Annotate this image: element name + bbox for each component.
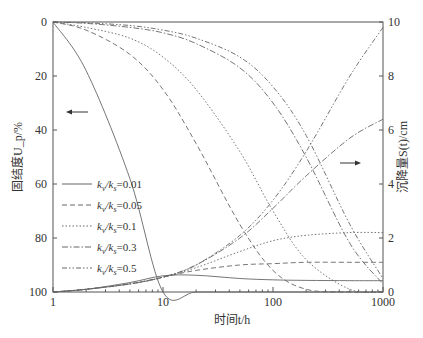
chart-container: 11010010000204060801000246810 时间t/h 固结度U… — [0, 0, 423, 338]
legend-label: kv/ks=0.01 — [97, 178, 142, 193]
series-line-3 — [53, 22, 383, 284]
legend-label: kv/ks=0.3 — [97, 241, 137, 256]
legend-label: kv/ks=0.05 — [97, 199, 142, 214]
y-left-tick-label: 80 — [35, 231, 47, 245]
legend-label: kv/ks=0.5 — [97, 262, 137, 277]
y-right-tick-label: 10 — [388, 15, 400, 29]
legend-label: kv/ks=0.1 — [97, 220, 137, 235]
axis-ticks: 11010010000204060801000246810 — [29, 15, 400, 309]
y-right-tick-label: 0 — [388, 285, 394, 299]
series-line-4 — [53, 22, 383, 279]
left-arrow-icon — [66, 110, 88, 115]
right-arrow-icon — [340, 161, 361, 166]
y-left-tick-label: 20 — [35, 69, 47, 83]
y-left-tick-label: 60 — [35, 177, 47, 191]
data-series — [53, 22, 383, 300]
x-tick-label: 1 — [50, 295, 56, 309]
y-axis-left-label: 固结度U_p/% — [10, 122, 25, 192]
y-left-tick-label: 100 — [29, 285, 47, 299]
y-axis-right-label: 沉降量S(t)/cm — [396, 120, 410, 193]
x-tick-label: 100 — [264, 295, 282, 309]
chart-svg: 11010010000204060801000246810 时间t/h 固结度U… — [0, 0, 423, 338]
series-line-5 — [53, 275, 383, 292]
legend: kv/ks=0.01kv/ks=0.05kv/ks=0.1kv/ks=0.3kv… — [62, 178, 142, 277]
y-right-tick-label: 8 — [388, 69, 394, 83]
y-left-tick-label: 0 — [41, 15, 47, 29]
y-right-tick-label: 6 — [388, 123, 394, 137]
x-axis-label: 时间t/h — [214, 313, 251, 327]
series-line-0 — [53, 22, 383, 300]
y-right-tick-label: 4 — [388, 177, 394, 191]
y-left-tick-label: 40 — [35, 123, 47, 137]
y-right-tick-label: 2 — [388, 231, 394, 245]
